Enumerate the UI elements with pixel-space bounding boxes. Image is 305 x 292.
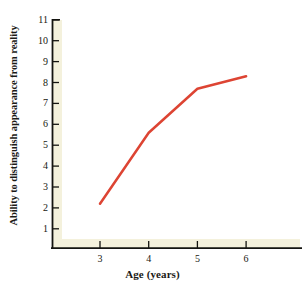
y-tick-label-7: 7 <box>28 97 48 108</box>
y-tick-label-4: 4 <box>28 160 48 171</box>
y-tick-label-10: 10 <box>28 35 48 46</box>
y-tick-label-1: 1 <box>28 223 48 234</box>
chart-figure: Ability to distinguish appearance from r… <box>0 0 305 292</box>
x-axis-label: Age (years) <box>0 268 305 280</box>
y-tick-label-3: 3 <box>28 181 48 192</box>
x-tick-label-4: 4 <box>139 253 159 264</box>
data-line-series-1 <box>100 76 246 204</box>
y-tick-label-6: 6 <box>28 118 48 129</box>
y-tick-label-5: 5 <box>28 139 48 150</box>
x-tick-label-6: 6 <box>236 253 256 264</box>
y-tick-label-2: 2 <box>28 202 48 213</box>
y-tick-label-11: 11 <box>28 14 48 25</box>
x-tick-label-5: 5 <box>187 253 207 264</box>
y-tick-label-9: 9 <box>28 56 48 67</box>
y-tick-label-8: 8 <box>28 77 48 88</box>
axis-shadow-band <box>53 20 300 248</box>
x-tick-label-3: 3 <box>90 253 110 264</box>
